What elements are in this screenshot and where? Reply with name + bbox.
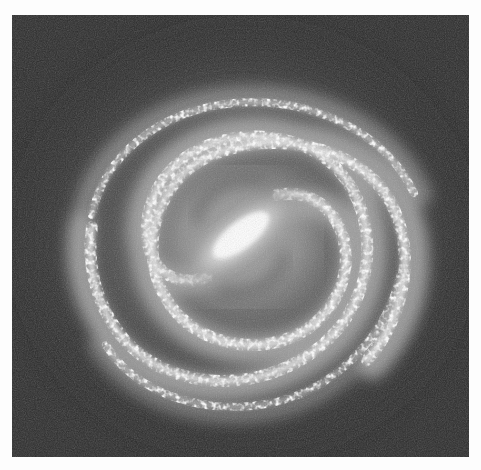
film-grain (12, 15, 469, 457)
galaxy-illustration (12, 15, 469, 457)
galaxy-image (12, 15, 469, 457)
page (0, 0, 481, 470)
